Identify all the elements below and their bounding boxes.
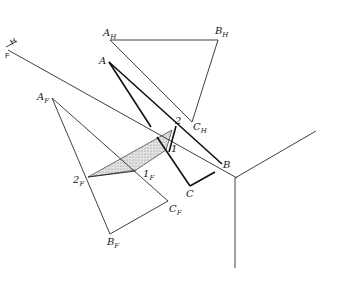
edge-ah-ch [110,40,192,122]
label-c-f: CF [169,203,183,217]
label-a-h: AH [102,27,117,41]
label-a-f: AF [36,91,50,105]
auxiliary-view-diagram: H F AH BH CH A AF BF CF 2F 1F 2 1 B C [0,0,344,291]
label-c-h: CH [193,121,208,135]
edge-af-bf [52,98,110,234]
label-b-h: BH [214,25,229,39]
shaded-intersection-region [88,130,172,177]
axis-right [235,131,316,178]
label-1: 1 [171,143,177,154]
label-2-f: 2F [72,174,85,188]
diagram-canvas: H F AH BH CH A AF BF CF 2F 1F 2 1 B C [0,0,344,291]
label-b: B [222,159,230,170]
label-b-f: BF [106,236,120,250]
label-2: 2 [174,115,181,126]
label-a: A [98,55,106,66]
edge-c-b [190,172,215,186]
fold-label-f: F [5,51,10,60]
edge-bf-cf [110,201,168,234]
edge-bh-ch [192,40,218,122]
label-c: C [186,188,194,199]
